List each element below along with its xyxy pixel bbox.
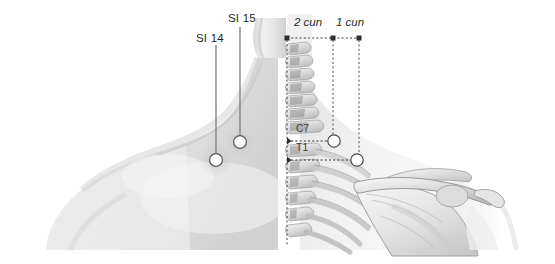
acupuncture-figure: SI 14 SI 15 2 cun 1 cun C7 T1 (0, 0, 555, 264)
anatomy-illustration (0, 0, 555, 264)
label-1-cun: 1 cun (336, 16, 364, 28)
label-t1: T1 (296, 142, 308, 153)
si15-marker (234, 136, 247, 149)
tick-right (357, 36, 362, 41)
tick-left (285, 36, 290, 41)
marker-si15-skeletal (328, 135, 340, 147)
soft-tissue-body (46, 18, 288, 250)
tick-mid (331, 36, 336, 41)
label-2-cun: 2 cun (294, 16, 322, 28)
skeletal-anatomy (286, 14, 516, 256)
si14-marker (210, 154, 223, 167)
label-si15: SI 15 (228, 12, 256, 24)
label-si14: SI 14 (196, 32, 224, 44)
label-c7: C7 (296, 123, 309, 134)
glenoid (436, 185, 468, 207)
c7-arrow (287, 138, 292, 145)
marker-si14-skeletal (351, 154, 363, 166)
